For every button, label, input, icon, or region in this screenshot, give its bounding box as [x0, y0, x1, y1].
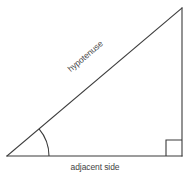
right-triangle-diagram: hypotenuse adjacent side: [0, 0, 190, 178]
adjacent-side-label: adjacent side: [0, 163, 190, 172]
triangle-figure: [0, 0, 190, 178]
right-angle-marker-icon: [166, 140, 182, 156]
hypotenuse-line: [7, 8, 182, 156]
angle-arc-icon: [39, 129, 49, 156]
